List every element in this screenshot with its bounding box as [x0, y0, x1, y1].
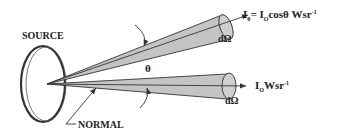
source-label: SOURCE: [22, 30, 64, 41]
intensity-angled-equation: Iθ= IOcosθ Wsr-1: [243, 8, 317, 22]
normal-label: NORMAL: [78, 119, 124, 130]
intensity-normal-equation: IOWsr-1: [255, 79, 289, 93]
theta-arc-top: [135, 25, 145, 46]
d-omega-top-label: dΩ: [218, 33, 232, 44]
theta-label: θ: [145, 62, 151, 74]
d-omega-bottom-label: dΩ: [225, 95, 239, 106]
radiant-intensity-diagram: SOURCE NORMAL θ dΩ dΩ Iθ= IOcosθ Wsr-1 I…: [0, 0, 344, 133]
